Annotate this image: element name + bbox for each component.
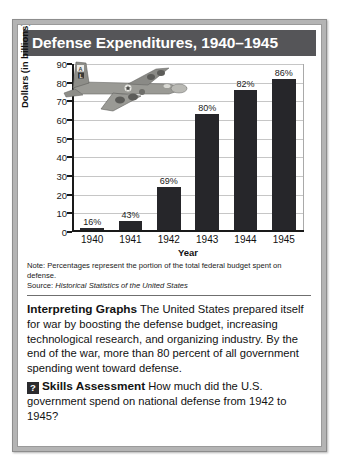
y-axis-tick-mark bbox=[67, 119, 72, 121]
skills-assessment-heading: Skills Assessment bbox=[42, 379, 145, 393]
gridline bbox=[73, 139, 303, 140]
skills-assessment-paragraph: ?Skills Assessment How much did the U.S.… bbox=[27, 379, 311, 423]
y-axis-tick-label: 20 bbox=[45, 189, 67, 200]
gridline bbox=[73, 176, 303, 177]
bar bbox=[157, 187, 181, 232]
y-axis-tick-mark bbox=[67, 63, 72, 65]
y-axis-tick-mark bbox=[67, 231, 72, 233]
y-axis-tick-label: 30 bbox=[45, 171, 67, 182]
x-axis-title: Year bbox=[72, 247, 304, 258]
gridline bbox=[73, 157, 303, 158]
graph-card-frame: Defense Expenditures, 1940–1945 Dollars … bbox=[12, 19, 327, 452]
question-mark-icon: ? bbox=[27, 382, 39, 394]
y-axis-tick-mark bbox=[67, 82, 72, 84]
gridline bbox=[73, 101, 303, 102]
bar-value-label: 69% bbox=[153, 176, 185, 186]
interpreting-graphs-paragraph: Interpreting Graphs The United States pr… bbox=[27, 302, 311, 376]
chart-note: Note: Percentages represent the portion … bbox=[27, 261, 311, 280]
x-axis-tick-label: 1941 bbox=[111, 234, 149, 245]
y-axis-tick-mark bbox=[67, 212, 72, 214]
source-title: Historical Statistics of the United Stat… bbox=[55, 281, 188, 290]
y-axis-tick-label: 80 bbox=[45, 77, 67, 88]
plot-area: 16%43%69%80%82%86% bbox=[73, 64, 304, 232]
interpreting-graphs-heading: Interpreting Graphs bbox=[27, 302, 137, 316]
x-axis-line bbox=[72, 230, 304, 232]
y-axis-tick-mark bbox=[67, 156, 72, 158]
bar-value-label: 82% bbox=[230, 79, 262, 89]
bar bbox=[195, 114, 219, 232]
bar-value-label: 80% bbox=[191, 103, 223, 113]
bar bbox=[234, 90, 258, 232]
x-axis-tick-label: 1945 bbox=[265, 234, 303, 245]
bar bbox=[272, 79, 296, 232]
y-axis-tick-label: 0 bbox=[45, 227, 67, 238]
y-axis-tick-mark bbox=[67, 175, 72, 177]
x-axis-tick-label: 1943 bbox=[188, 234, 226, 245]
y-axis-tick-label: 70 bbox=[45, 96, 67, 107]
y-axis-tick-mark bbox=[67, 100, 72, 102]
graph-card-body: Defense Expenditures, 1940–1945 Dollars … bbox=[17, 24, 322, 447]
y-axis-tick-label: 50 bbox=[45, 133, 67, 144]
y-axis-line bbox=[72, 64, 74, 232]
gridline bbox=[73, 83, 303, 84]
y-axis-tick-mark bbox=[67, 194, 72, 196]
gridline bbox=[73, 64, 303, 65]
section-divider bbox=[27, 295, 311, 296]
y-axis-title: Dollars (in billions) bbox=[19, 24, 30, 108]
y-axis-tick-label: 60 bbox=[45, 115, 67, 126]
chart-title-bar: Defense Expenditures, 1940–1945 bbox=[23, 30, 316, 56]
gridline bbox=[73, 195, 303, 196]
bar-value-label: 86% bbox=[268, 68, 300, 78]
y-axis-tick-label: 90 bbox=[45, 59, 67, 70]
page-title: Defense Expenditures, 1940–1945 bbox=[32, 34, 278, 52]
bar-value-label: 16% bbox=[76, 217, 108, 227]
x-axis-tick-label: 1942 bbox=[150, 234, 188, 245]
bar-value-label: 43% bbox=[115, 210, 147, 220]
y-axis-tick-label: 10 bbox=[45, 208, 67, 219]
bar-chart: Dollars (in billions) 16%43%69%80%82%86% bbox=[23, 58, 316, 286]
gridline bbox=[73, 120, 303, 121]
chart-source: Source: Historical Statistics of the Uni… bbox=[27, 281, 311, 290]
source-label: Source: bbox=[27, 281, 53, 290]
x-axis-tick-label: 1940 bbox=[73, 234, 111, 245]
x-axis-tick-label: 1944 bbox=[226, 234, 264, 245]
y-axis-tick-label: 40 bbox=[45, 152, 67, 163]
y-axis-tick-mark bbox=[67, 138, 72, 140]
gridline bbox=[73, 213, 303, 214]
